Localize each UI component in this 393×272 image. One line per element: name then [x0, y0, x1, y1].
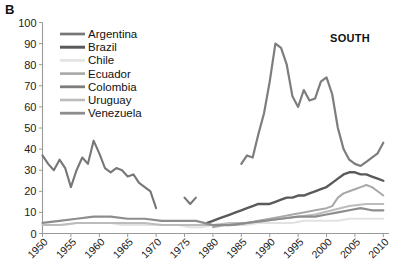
y-tick-label: 20 — [24, 185, 36, 197]
chart-legend: ArgentinaBrazilChileEcuadorColombiaUrugu… — [60, 28, 142, 119]
y-tick-label: 50 — [24, 122, 36, 134]
series-line-argentina — [185, 198, 196, 204]
legend-label-uruguay: Uruguay — [88, 94, 132, 106]
x-tick-label: 1975 — [167, 235, 192, 260]
x-tick-label: 1965 — [110, 235, 135, 260]
y-tick-label: 100 — [18, 17, 36, 29]
x-tick-label: 1950 — [25, 235, 50, 260]
x-tick-label: 1985 — [224, 235, 249, 260]
series-line-argentina — [43, 141, 157, 209]
legend-label-chile: Chile — [88, 54, 114, 66]
legend-label-ecuador: Ecuador — [88, 68, 131, 80]
chart-container: B SOUTH 0102030405060708090100 195019551… — [0, 0, 393, 272]
x-tick-label: 1995 — [281, 235, 306, 260]
x-tick-label: 1990 — [252, 235, 277, 260]
y-tick-label: 0 — [30, 228, 36, 240]
x-tick-label: 1970 — [139, 235, 164, 260]
region-label: SOUTH — [330, 32, 370, 44]
legend-label-colombia: Colombia — [88, 81, 137, 93]
x-tick-label: 1980 — [195, 235, 220, 260]
legend-label-argentina: Argentina — [88, 28, 138, 40]
x-tick-label: 2010 — [366, 235, 391, 260]
y-axis-ticks: 0102030405060708090100 — [18, 17, 42, 240]
series-line-brazil — [207, 172, 383, 223]
y-tick-label: 30 — [24, 164, 36, 176]
y-tick-label: 90 — [24, 38, 36, 50]
legend-label-brazil: Brazil — [88, 41, 117, 53]
panel-label: B — [5, 2, 14, 17]
x-tick-label: 2005 — [337, 235, 362, 260]
series-line-ecuador — [213, 185, 383, 227]
y-tick-label: 60 — [24, 101, 36, 113]
series-line-colombia — [241, 44, 383, 166]
x-tick-label: 1960 — [82, 235, 107, 260]
y-tick-label: 10 — [24, 206, 36, 218]
x-axis-ticks: 1950195519601965197019751980198519901995… — [25, 234, 391, 261]
legend-label-venezuela: Venezuela — [88, 107, 142, 119]
x-tick-label: 1955 — [53, 235, 78, 260]
y-tick-label: 40 — [24, 143, 36, 155]
x-tick-label: 2000 — [309, 235, 334, 260]
y-tick-label: 80 — [24, 59, 36, 71]
y-tick-label: 70 — [24, 80, 36, 92]
